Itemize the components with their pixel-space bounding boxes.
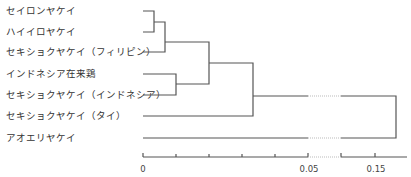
tick-label-0-05: 0.05 [300,164,319,174]
tick-label-0: 0 [140,164,145,174]
dendrogram [0,0,411,177]
tick-label-0-15: 0.15 [367,164,386,174]
